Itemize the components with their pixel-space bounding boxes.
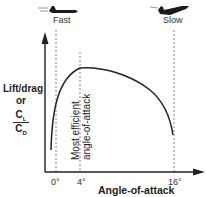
annotation-line1: Most efficient <box>70 94 81 160</box>
cd-subscript: D <box>22 130 26 136</box>
fast-label: Fast <box>53 15 71 25</box>
annotation-most-efficient: Most efficient angle-of-attack <box>70 94 92 160</box>
cl-symbol: C <box>16 109 23 120</box>
y-label-line1: Lift/drag <box>3 83 39 94</box>
slow-label: Slow <box>163 15 183 25</box>
airplane-slow-icon <box>150 6 189 15</box>
y-label-line2: or <box>3 95 39 106</box>
tick-0: 0° <box>51 177 60 187</box>
annotation-line2: angle-of-attack <box>81 94 92 160</box>
airplane-fast-icon <box>38 6 78 13</box>
y-axis-label: Lift/drag or CL CD <box>3 83 39 136</box>
cl-cd-fraction: CL CD <box>3 109 39 136</box>
tick-4: 4° <box>77 177 86 187</box>
cl-subscript: L <box>23 116 27 122</box>
y-axis-arrow-icon <box>42 32 49 44</box>
x-axis-label: Angle-of-attack <box>98 184 174 196</box>
x-axis-arrow-icon <box>193 169 205 176</box>
